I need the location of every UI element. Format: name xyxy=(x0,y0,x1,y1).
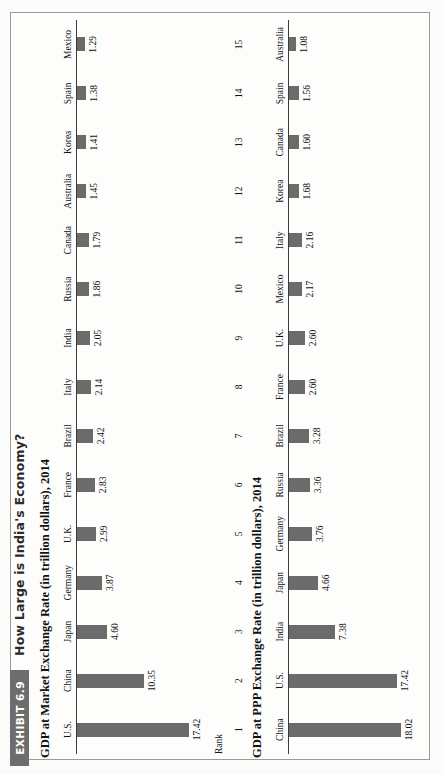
bar-value-label: 2.99 xyxy=(99,525,109,542)
category-label: Brazil xyxy=(272,411,288,460)
rank-value: 14 xyxy=(234,69,244,118)
bar xyxy=(77,380,91,394)
bar xyxy=(289,331,305,345)
category-label: Australia xyxy=(272,20,288,69)
exhibit-title: How Large is India's Economy? xyxy=(10,434,29,656)
bar-value-label: 1.08 xyxy=(299,36,309,53)
bar-value-label: 1.79 xyxy=(92,232,102,249)
bar-value-label: 17.42 xyxy=(400,670,410,691)
charts-area: GDP at Market Exchange Rate (in trillion… xyxy=(36,14,438,758)
bar-value-label: 1.86 xyxy=(92,281,102,298)
rank-cells: 123456789101112131415 xyxy=(234,20,244,754)
bar-group: 3.76 xyxy=(289,509,422,558)
bar-value-label: 1.68 xyxy=(302,183,312,200)
bar xyxy=(289,282,302,296)
bar-group: 1.60 xyxy=(289,118,422,167)
bar xyxy=(289,37,296,51)
exhibit-page: EXHIBIT 6.9 How Large is India's Economy… xyxy=(0,0,444,774)
bar xyxy=(77,135,86,149)
bar-group: 1.68 xyxy=(289,167,422,216)
category-label: Australia xyxy=(60,167,76,216)
bar-value-label: 10.35 xyxy=(147,670,157,691)
category-label: U.S. xyxy=(272,656,288,705)
category-label: China xyxy=(60,656,76,705)
rank-value: 6 xyxy=(234,460,244,509)
bar-value-label: 1.60 xyxy=(302,134,312,151)
bar xyxy=(77,233,89,247)
bar-value-label: 2.60 xyxy=(308,379,318,396)
bar-group: 3.28 xyxy=(289,411,422,460)
rotated-page-container: EXHIBIT 6.9 How Large is India's Economy… xyxy=(0,0,444,774)
rank-value: 2 xyxy=(234,656,244,705)
rank-value: 4 xyxy=(234,558,244,607)
chart-title-market: GDP at Market Exchange Rate (in trillion… xyxy=(38,459,53,758)
rank-column: 123456789101112131415 xyxy=(230,20,248,754)
bar-group: 3.36 xyxy=(289,460,422,509)
bar-group: 18.02 xyxy=(289,705,422,754)
bar-group: 1.79 xyxy=(77,216,210,265)
plot-market: U.S.ChinaJapanGermanyU.K.FranceBrazilIta… xyxy=(60,20,210,754)
bar-value-label: 7.38 xyxy=(338,623,348,640)
rank-value: 8 xyxy=(234,363,244,412)
bar xyxy=(77,478,95,492)
category-label: India xyxy=(272,607,288,656)
rank-header-holder: Rank xyxy=(214,20,228,754)
category-label: Korea xyxy=(272,167,288,216)
bar-value-label: 2.42 xyxy=(96,428,106,445)
bar xyxy=(77,723,189,737)
bar-value-label: 3.36 xyxy=(313,477,323,494)
bar-value-label: 2.17 xyxy=(305,281,315,298)
bar-value-label: 17.42 xyxy=(192,719,202,740)
category-label: Germany xyxy=(60,558,76,607)
bar xyxy=(77,429,93,443)
bar-group: 4.66 xyxy=(289,558,422,607)
bar-value-label: 18.02 xyxy=(404,719,414,740)
category-label: Russia xyxy=(272,460,288,509)
bar-value-label: 1.29 xyxy=(88,36,98,53)
rank-value: 12 xyxy=(234,167,244,216)
category-label: U.S. xyxy=(60,705,76,754)
bar-group: 2.17 xyxy=(289,265,422,314)
bar xyxy=(77,184,86,198)
chart-ppp-exchange-rate: GDP at PPP Exchange Rate (in trillion do… xyxy=(250,14,436,758)
rank-value: 1 xyxy=(234,705,244,754)
category-label: Canada xyxy=(60,216,76,265)
category-label: India xyxy=(60,314,76,363)
category-label: Germany xyxy=(272,509,288,558)
rank-value: 11 xyxy=(234,216,244,265)
bar xyxy=(289,576,318,590)
bar xyxy=(289,86,299,100)
bar xyxy=(289,135,299,149)
category-label: U.K. xyxy=(60,509,76,558)
bar-group: 2.14 xyxy=(77,363,210,412)
rank-value: 5 xyxy=(234,509,244,558)
bar-group: 2.42 xyxy=(77,411,210,460)
bar xyxy=(289,380,305,394)
category-label: China xyxy=(272,705,288,754)
bar xyxy=(77,576,102,590)
bar-group: 17.42 xyxy=(289,656,422,705)
bar-value-label: 3.87 xyxy=(105,574,115,591)
bar xyxy=(77,527,96,541)
bar-group: 2.83 xyxy=(77,460,210,509)
bar-value-label: 3.76 xyxy=(315,525,325,542)
bar xyxy=(289,625,335,639)
category-label: Japan xyxy=(272,558,288,607)
bar-value-label: 1.45 xyxy=(89,183,99,200)
bar xyxy=(77,282,89,296)
bar-group: 1.45 xyxy=(77,167,210,216)
category-label: Mexico xyxy=(272,265,288,314)
category-label: Mexico xyxy=(60,20,76,69)
bar-group: 1.29 xyxy=(77,20,210,69)
bar-value-label: 2.83 xyxy=(98,477,108,494)
bar-value-label: 1.41 xyxy=(89,134,99,151)
rank-value: 7 xyxy=(234,411,244,460)
category-label: Brazil xyxy=(60,411,76,460)
bar xyxy=(289,723,401,737)
bar-group: 1.08 xyxy=(289,20,422,69)
category-label: U.K. xyxy=(272,314,288,363)
bar-group: 2.99 xyxy=(77,509,210,558)
bar xyxy=(289,674,397,688)
category-label: Russia xyxy=(60,265,76,314)
category-label: France xyxy=(60,460,76,509)
